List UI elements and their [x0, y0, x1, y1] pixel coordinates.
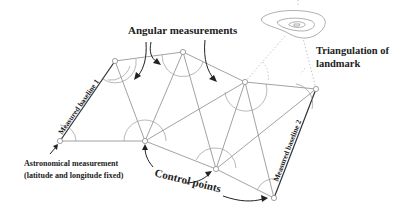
control-point-icon [142, 138, 147, 143]
arrow-head-icon [142, 144, 148, 150]
arrow-head-icon [209, 75, 217, 82]
astronomical-label-line1: Astronomical measurement [24, 159, 118, 168]
node-icon [112, 58, 117, 63]
astronomical-label-line2: (latitude and longitude fixed) [24, 171, 124, 180]
baseline-2-label: Measured baseline 2 [271, 118, 303, 182]
triangulation-label-line1: Triangulation of [316, 45, 390, 56]
control-points-label: Control points [154, 166, 224, 194]
landmark-sight-lines [245, 0, 316, 89]
landmark-contour-icon [261, 11, 325, 39]
control-point-icon [213, 166, 218, 171]
node-icon [180, 49, 185, 54]
control-point-icon [271, 195, 276, 200]
node-icon [313, 86, 318, 91]
triangulation-diagram: Angular measurements Triangulation of la… [0, 0, 415, 214]
astronomical-point-icon [57, 138, 62, 143]
arrow-head-icon [261, 195, 268, 202]
angular-arrows [134, 40, 217, 82]
triangulation-label-line2: landmark [316, 58, 361, 69]
angular-measurements-label: Angular measurements [128, 24, 238, 36]
baseline-1-label: Measured baseline 1 [56, 77, 101, 136]
node-icon [242, 79, 247, 84]
